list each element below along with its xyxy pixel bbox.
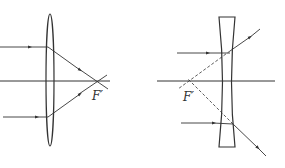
refracted-ray-upper	[48, 47, 80, 70]
refracted-ray-upper-cont	[79, 69, 108, 89]
diverging-lens-panel: F′	[157, 17, 275, 156]
refracted-ray-upper-cont	[249, 29, 260, 38]
convex-lens	[46, 14, 54, 146]
refracted-ray-lower	[48, 94, 80, 117]
ray-diagram: F′ F′	[0, 0, 285, 168]
focal-point-label: F′	[91, 89, 103, 103]
converging-lens-panel: F′	[0, 14, 110, 146]
incident-ray-lower-cont	[213, 123, 233, 124]
refracted-ray-lower	[233, 124, 258, 148]
virtual-extension-lower	[188, 79, 233, 124]
concave-lens	[219, 17, 235, 147]
focal-point-label: F′	[182, 90, 194, 104]
refracted-ray-lower-cont	[257, 147, 266, 156]
